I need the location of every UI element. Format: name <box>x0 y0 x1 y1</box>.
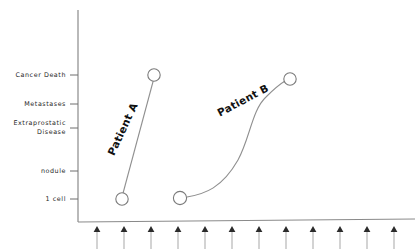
y-tick-label-metastases: Metastases <box>0 100 66 109</box>
chart-canvas: Cancer Death Metastases Extraprostatic D… <box>0 0 419 249</box>
series-patient-b <box>173 73 296 205</box>
y-tick-label-extraprostatic-disease: Extraprostatic Disease <box>0 119 66 137</box>
y-tick-label-nodule: nodule <box>0 167 66 176</box>
x-axis-arrow-markers <box>94 226 398 249</box>
data-point-marker <box>116 193 128 205</box>
y-axis-ticks <box>70 75 78 199</box>
y-tick-label-cancer-death: Cancer Death <box>0 71 66 80</box>
y-tick-label-1-cell: 1 cell <box>0 195 66 204</box>
data-point-marker <box>148 69 160 81</box>
data-point-marker <box>173 191 186 204</box>
data-point-marker <box>284 73 296 85</box>
